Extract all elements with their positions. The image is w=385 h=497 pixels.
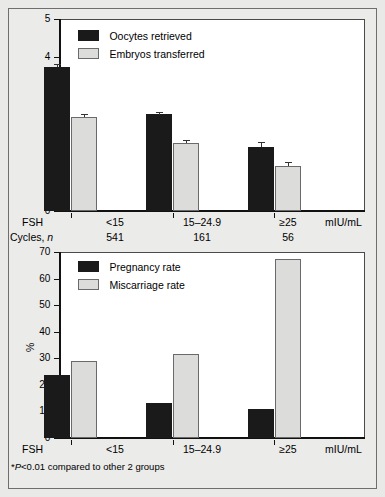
error-bar-cap	[183, 140, 190, 141]
y-tick	[54, 211, 59, 212]
cycles-value-2: 56	[253, 231, 323, 243]
y-axis-label-percent: %	[24, 343, 36, 352]
error-bar-cap	[54, 64, 61, 65]
y-tick	[54, 279, 59, 280]
row-label-cycles: Cycles, n	[10, 231, 72, 243]
bar	[146, 114, 172, 211]
y-tick	[54, 358, 59, 359]
legend-label-oocytes-retrieved: Oocytes retrieved	[109, 30, 191, 42]
row-label-fsh: FSH	[22, 216, 72, 228]
unit-label-top: mIU/mL	[325, 216, 362, 228]
bar	[248, 147, 274, 211]
legend-label-pregnancy-rate: Pregnancy rate	[109, 261, 180, 273]
bar	[248, 409, 274, 438]
y-tick-label: 60	[26, 274, 50, 284]
footnote: *P<0.01 compared to other 2 groups	[11, 461, 164, 472]
unit-label-bottom: mIU/mL	[325, 443, 362, 455]
y-tick-label: 30	[26, 353, 50, 363]
y-tick-label: 5	[26, 14, 50, 24]
error-bar-cap	[258, 142, 265, 143]
legend-label-miscarriage-rate: Miscarriage rate	[109, 279, 184, 291]
row-label-fsh-bottom: FSH	[22, 443, 72, 455]
error-bar-cap	[81, 114, 88, 115]
cycles-value-1: 161	[163, 231, 241, 243]
legend-item-pregnancy-rate: Pregnancy rate	[78, 257, 185, 272]
x-axis-bottom	[59, 437, 365, 439]
legend-label-embryos-transferred: Embryos transferred	[109, 48, 204, 60]
bar	[44, 67, 70, 211]
y-tick-label: 4	[26, 52, 50, 62]
x-axis-top	[59, 210, 365, 212]
figure-panel: 012345 Oocytes retrieved Embryos transfe…	[0, 0, 385, 497]
error-bar-cap	[285, 162, 292, 163]
category-label-bottom-2: ≥25	[253, 443, 323, 455]
error-bar-cap	[156, 112, 163, 113]
y-tick	[54, 19, 59, 20]
bar	[173, 143, 199, 211]
footnote-rest: <0.01 compared to other 2 groups	[21, 461, 164, 472]
legend-item-embryos-transferred: Embryos transferred	[78, 44, 205, 59]
cycles-italic-n: n	[47, 231, 53, 243]
bar	[44, 375, 70, 438]
bar	[275, 166, 301, 211]
chart-top: 012345 Oocytes retrieved Embryos transfe…	[0, 0, 385, 230]
bar	[275, 259, 301, 438]
category-label-bottom-1: 15–24.9	[163, 443, 241, 455]
legend-top: Oocytes retrieved Embryos transferred	[78, 26, 205, 62]
bar	[173, 354, 199, 438]
category-label-2: ≥25	[253, 216, 323, 228]
cycles-text: Cycles,	[10, 231, 47, 243]
category-label-1: 15–24.9	[163, 216, 241, 228]
category-rows: FSH Cycles, n <15 15–24.9 ≥25 mIU/mL 541…	[0, 214, 385, 248]
legend-swatch-light-icon	[78, 48, 99, 59]
bar	[71, 117, 97, 211]
legend-item-oocytes-retrieved: Oocytes retrieved	[78, 26, 205, 41]
bar	[71, 361, 97, 438]
y-tick	[54, 57, 59, 58]
y-tick	[54, 332, 59, 333]
y-tick-label: 70	[26, 247, 50, 257]
y-tick	[54, 252, 59, 253]
cycles-value-0: 541	[80, 231, 150, 243]
legend-swatch-light-icon	[78, 279, 99, 290]
chart-bottom: 010203040506070 % Pregnancy rate Miscarr…	[0, 248, 385, 497]
legend-swatch-dark-icon	[78, 261, 99, 272]
legend-swatch-dark-icon	[78, 30, 99, 41]
y-tick	[54, 305, 59, 306]
legend-item-miscarriage-rate: Miscarriage rate	[78, 275, 185, 290]
y-tick-label: 40	[26, 327, 50, 337]
category-label-0: <15	[80, 216, 150, 228]
y-tick	[54, 438, 59, 439]
y-tick-label: 50	[26, 300, 50, 310]
category-label-bottom-0: <15	[80, 443, 150, 455]
bar	[146, 403, 172, 438]
legend-bottom: Pregnancy rate Miscarriage rate	[78, 257, 185, 293]
